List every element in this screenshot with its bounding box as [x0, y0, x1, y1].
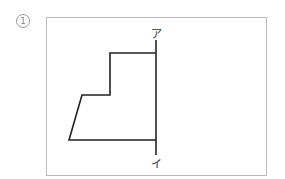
- axis-label-top: ア: [151, 25, 162, 41]
- symmetry-diagram: [0, 0, 285, 179]
- half-shape: [69, 53, 156, 140]
- axis-label-bottom: イ: [151, 155, 162, 171]
